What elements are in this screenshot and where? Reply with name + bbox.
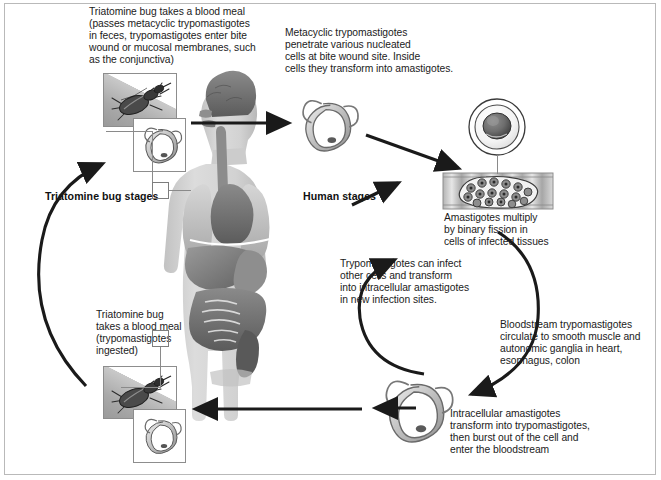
flow-arrows	[0, 0, 661, 480]
life-cycle-diagram: Triatomine bug takes a blood meal (passe…	[0, 0, 661, 480]
